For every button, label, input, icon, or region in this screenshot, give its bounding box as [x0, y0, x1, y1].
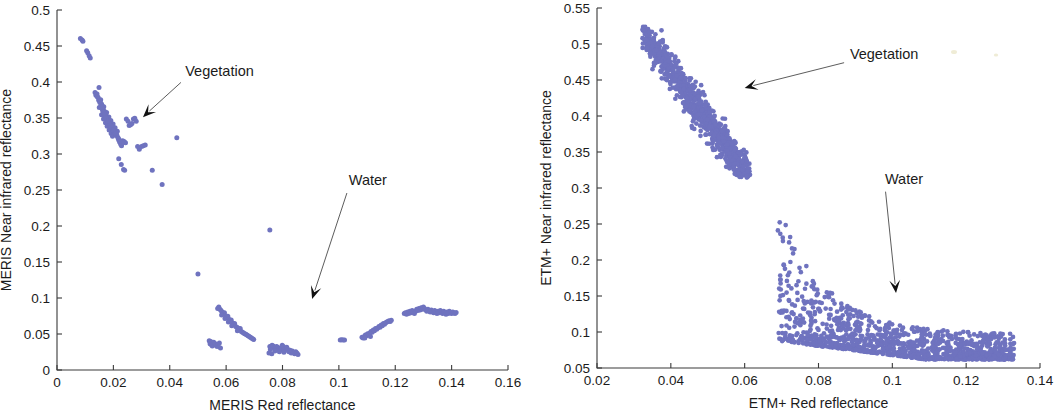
- annotation-label: Vegetation: [850, 46, 919, 62]
- y-tick-label: 0.45: [564, 73, 590, 88]
- y-tick-label: 0.5: [31, 3, 50, 18]
- annotation-vegetation: Vegetation: [745, 46, 919, 90]
- two-panel-scatter-figure: 00.050.10.150.20.250.30.350.40.450.500.0…: [0, 0, 1057, 414]
- y-tick-label: 0.25: [564, 217, 590, 232]
- y-axis-title: MERIS Near infrared reflectance: [0, 89, 14, 292]
- x-axis-ticks: 00.020.040.060.080.10.120.140.16: [53, 365, 521, 390]
- x-tick-label: 0.1: [883, 373, 902, 388]
- x-tick-label: 0.04: [157, 375, 184, 390]
- panel-etm-scatter: 0.050.10.150.20.250.30.350.40.450.50.550…: [530, 0, 1057, 414]
- annotation-vegetation: Vegetation: [143, 63, 254, 117]
- annotation-label: Water: [349, 172, 387, 188]
- x-axis-ticks: 0.020.040.060.080.10.120.14: [584, 363, 1054, 388]
- y-tick-label: 0.3: [31, 147, 50, 162]
- y-tick-label: 0.05: [24, 327, 50, 342]
- x-tick-label: 0.08: [269, 375, 295, 390]
- y-tick-label: 0.35: [564, 145, 590, 160]
- annotation-label: Water: [885, 171, 923, 187]
- y-tick-label: 0.15: [24, 255, 50, 270]
- y-tick-label: 0.55: [564, 1, 590, 16]
- x-tick-label: 0.04: [658, 373, 685, 388]
- y-tick-label: 0.1: [571, 325, 590, 340]
- y-tick-label: 0.4: [571, 109, 590, 124]
- panel-meris-scatter: 00.050.10.150.20.250.30.350.40.450.500.0…: [0, 0, 530, 414]
- x-tick-label: 0.06: [732, 373, 758, 388]
- x-axis-title: ETM+ Red reflectance: [749, 395, 889, 411]
- data-points: [78, 36, 459, 357]
- y-tick-label: 0.15: [564, 289, 590, 304]
- annotation-water: Water: [885, 171, 923, 293]
- x-tick-label: 0.08: [805, 373, 831, 388]
- x-axis-title: MERIS Red reflectance: [209, 397, 355, 413]
- x-tick-label: 0.12: [953, 373, 979, 388]
- x-tick-label: 0.06: [213, 375, 239, 390]
- annotation-label: Vegetation: [185, 63, 254, 79]
- y-tick-label: 0.1: [31, 291, 50, 306]
- axes-frame: [57, 10, 508, 370]
- data-points: [640, 25, 1016, 362]
- x-tick-label: 0.14: [438, 375, 465, 390]
- x-tick-label: 0.16: [495, 375, 521, 390]
- y-axis-ticks: 00.050.10.150.20.250.30.350.40.450.5: [24, 3, 62, 378]
- y-tick-label: 0.45: [24, 39, 50, 54]
- meris-scatter-plot: 00.050.10.150.20.250.30.350.40.450.500.0…: [0, 0, 530, 414]
- x-tick-label: 0.12: [382, 375, 408, 390]
- y-axis-ticks: 0.050.10.150.20.250.30.350.40.450.50.55: [564, 1, 602, 376]
- etm-scatter-plot: 0.050.10.150.20.250.30.350.40.450.50.550…: [530, 0, 1057, 414]
- y-tick-label: 0: [42, 363, 50, 378]
- y-tick-label: 0.2: [31, 219, 50, 234]
- x-tick-label: 0: [53, 375, 61, 390]
- y-tick-label: 0.2: [571, 253, 590, 268]
- y-tick-label: 0.4: [31, 75, 50, 90]
- x-tick-label: 0.1: [329, 375, 348, 390]
- x-tick-label: 0.02: [100, 375, 126, 390]
- x-tick-label: 0.02: [584, 373, 610, 388]
- y-axis-title: ETM+ Near infrared reflectance: [538, 90, 554, 286]
- y-tick-label: 0.3: [571, 181, 590, 196]
- y-tick-label: 0.25: [24, 183, 50, 198]
- scan-speck: [951, 50, 998, 57]
- annotation-water: Water: [311, 172, 387, 299]
- x-tick-label: 0.14: [1027, 373, 1054, 388]
- y-tick-label: 0.5: [571, 37, 590, 52]
- y-tick-label: 0.35: [24, 111, 50, 126]
